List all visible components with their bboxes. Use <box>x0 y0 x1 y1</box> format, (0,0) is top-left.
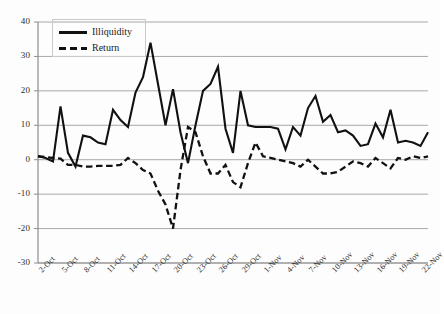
chart-legend: Illiquidity Return <box>52 19 146 57</box>
legend-item-return: Return <box>59 41 119 55</box>
legend-label-illiquidity: Illiquidity <box>92 27 132 37</box>
legend-label-return: Return <box>92 43 119 53</box>
y-tick-label: 0 <box>4 154 30 164</box>
y-tick-label: -30 <box>4 257 30 267</box>
y-tick-label: 10 <box>4 119 30 129</box>
y-tick-label: 40 <box>4 16 30 26</box>
legend-swatch-solid-icon <box>59 31 87 34</box>
series-line-illiquidity <box>38 43 428 167</box>
legend-item-illiquidity: Illiquidity <box>59 25 132 39</box>
y-tick-label: -20 <box>4 223 30 233</box>
y-tick-label: 30 <box>4 50 30 60</box>
y-tick-label: 20 <box>4 85 30 95</box>
y-tick-label: -10 <box>4 188 30 198</box>
legend-swatch-dashed-icon <box>59 47 87 50</box>
